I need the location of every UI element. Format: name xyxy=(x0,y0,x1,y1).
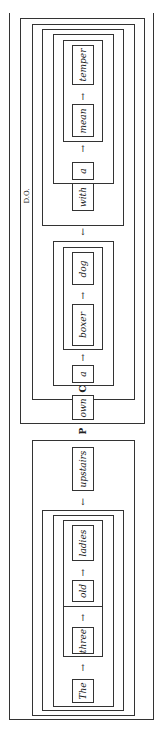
word-ladies: ladies xyxy=(72,525,94,561)
word-old: old xyxy=(72,580,94,602)
arrow-icon: ↑ xyxy=(78,144,88,154)
down-arrow-icon: ↓ xyxy=(78,227,88,237)
predicate-label-p: P xyxy=(78,424,88,438)
word-mean: mean xyxy=(72,104,94,137)
word-dog: dog xyxy=(72,252,94,285)
down-arrow-icon: ↓ xyxy=(78,497,88,507)
word-a2: a xyxy=(72,365,94,383)
verb-label-c: C xyxy=(78,382,88,396)
arrow-icon: ↑ xyxy=(78,613,88,623)
direct-object-label: D.O. xyxy=(22,184,32,208)
arrow-icon: ↑ xyxy=(78,568,88,578)
word-a: a xyxy=(72,162,94,180)
word-upstairs: upstairs xyxy=(72,447,94,491)
word-boxer: boxer xyxy=(72,304,94,346)
word-three: three xyxy=(72,627,94,654)
arrow-icon: ↑ xyxy=(78,291,88,301)
word-temper: temper xyxy=(72,45,94,85)
arrow-icon: ↑ xyxy=(78,353,88,363)
arrow-icon: ↑ xyxy=(78,92,88,102)
word-own: own xyxy=(72,395,94,420)
word-the: The xyxy=(72,679,94,703)
arrow-icon: ↑ xyxy=(78,663,88,673)
word-with: with xyxy=(72,183,94,211)
